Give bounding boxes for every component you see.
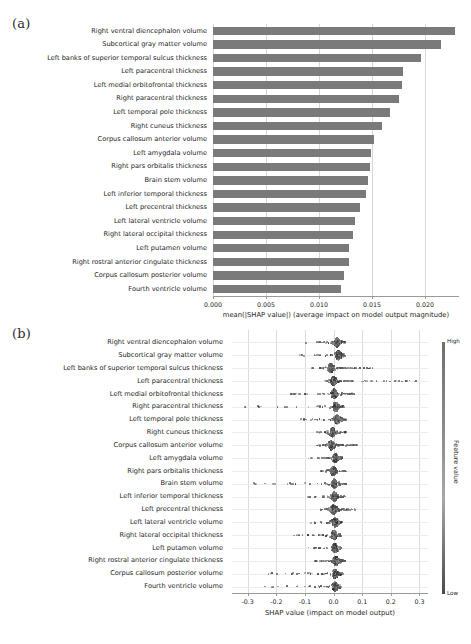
panel-b-swarm-point — [328, 342, 330, 344]
panel-b-swarm-point — [316, 445, 318, 447]
panel-a-bar-row[interactable] — [213, 106, 459, 120]
panel-a-bar[interactable] — [213, 163, 370, 171]
panel-a-bar-row[interactable] — [213, 51, 459, 65]
panel-b-swarm-point — [320, 560, 322, 562]
panel-b-swarm-point — [296, 573, 298, 575]
panel-b-category-label: Left banks of superior temporal sulcus t… — [63, 365, 223, 372]
panel-a-category-label: Brain stem volume — [145, 177, 207, 184]
panel-a-bar-row[interactable] — [213, 255, 459, 269]
panel-a-bar[interactable] — [213, 95, 399, 103]
panel-b-swarm-point — [334, 590, 336, 592]
panel-b-swarm-row[interactable] — [232, 477, 428, 490]
panel-b-swarm-row[interactable] — [232, 336, 428, 349]
panel-b-swarm-point — [338, 572, 340, 574]
panel-b-swarm-row[interactable] — [232, 387, 428, 400]
panel-a-bar[interactable] — [213, 190, 366, 198]
panel-a-bar[interactable] — [213, 149, 371, 157]
panel-a-bar[interactable] — [213, 203, 360, 211]
panel-a-bar-chart: Right ventral diencephalon volumeSubcort… — [0, 24, 471, 316]
panel-b-category-label-row: Brain stem volume — [0, 477, 228, 490]
panel-b-swarm-point — [264, 483, 266, 485]
panel-b-swarm-point — [349, 509, 351, 511]
panel-a-bar[interactable] — [213, 122, 382, 130]
panel-b-swarm-point — [277, 406, 279, 408]
panel-b-swarm-point — [326, 586, 328, 588]
panel-a-bar-row[interactable] — [213, 201, 459, 215]
panel-b-swarm-point — [366, 380, 368, 382]
panel-a-bar-row[interactable] — [213, 269, 459, 283]
panel-b-swarm-row[interactable] — [232, 542, 428, 555]
panel-a-bar-row[interactable] — [213, 214, 459, 228]
panel-b-category-label: Right cuneus thickness — [147, 429, 223, 436]
panel-a-bar[interactable] — [213, 40, 441, 48]
panel-a-bar-row[interactable] — [213, 160, 459, 174]
panel-b-swarm-row[interactable] — [232, 516, 428, 529]
panel-b-swarm-point — [317, 419, 319, 421]
panel-a-bar[interactable] — [213, 54, 421, 62]
panel-a-bar-row[interactable] — [213, 24, 459, 38]
panel-a-category-label: Left amygdala volume — [133, 150, 207, 157]
panel-b-swarm-row[interactable] — [232, 490, 428, 503]
panel-a-bar-row[interactable] — [213, 78, 459, 92]
panel-b-swarm-point — [334, 473, 336, 475]
panel-b-swarm-point — [371, 380, 373, 382]
panel-b-swarm-point — [340, 457, 342, 459]
panel-a-category-label: Corpus callosum posterior volume — [94, 272, 207, 279]
panel-a-bar-row[interactable] — [213, 282, 459, 296]
panel-a-bar[interactable] — [213, 135, 374, 143]
panel-a-bar-row[interactable] — [213, 119, 459, 133]
panel-b-swarm-row[interactable] — [232, 400, 428, 413]
panel-a-bar[interactable] — [213, 176, 368, 184]
panel-b-swarm-row[interactable] — [232, 439, 428, 452]
panel-a-bar[interactable] — [213, 231, 353, 239]
panel-a-bar-row[interactable] — [213, 65, 459, 79]
panel-b-swarm-row[interactable] — [232, 567, 428, 580]
panel-b-swarm-row[interactable] — [232, 362, 428, 375]
panel-a-bars — [213, 24, 459, 296]
panel-a-bar-row[interactable] — [213, 187, 459, 201]
panel-a-bar[interactable] — [213, 285, 341, 293]
panel-b-swarm-row[interactable] — [232, 375, 428, 388]
panel-b-category-label-row: Right ventral diencephalon volume — [0, 336, 228, 349]
panel-b-swarm-row[interactable] — [232, 426, 428, 439]
panel-b-swarm-point — [359, 367, 361, 369]
panel-b-swarm-row[interactable] — [232, 503, 428, 516]
panel-a-bar-row[interactable] — [213, 38, 459, 52]
panel-a-bar[interactable] — [213, 27, 455, 35]
panel-a-category-label: Left banks of superior temporal sulcus t… — [47, 55, 207, 62]
panel-b-swarm-row[interactable] — [232, 413, 428, 426]
panel-a-bar-row[interactable] — [213, 146, 459, 160]
panel-a-bar-row[interactable] — [213, 133, 459, 147]
panel-a-bar-row[interactable] — [213, 174, 459, 188]
panel-a-bar[interactable] — [213, 271, 344, 279]
panel-b-category-label: Left medial orbitofrontal thickness — [110, 391, 223, 398]
panel-b-swarm-point — [409, 380, 411, 382]
panel-a-bar[interactable] — [213, 258, 349, 266]
panel-b-swarm-point — [309, 483, 311, 485]
panel-b-swarm-row[interactable] — [232, 580, 428, 593]
panel-b-swarm-point — [292, 572, 294, 574]
panel-a-bar[interactable] — [213, 108, 390, 116]
panel-b-swarm-row[interactable] — [232, 452, 428, 465]
panel-a-bar[interactable] — [213, 81, 402, 89]
panel-b-swarm-row[interactable] — [232, 349, 428, 362]
panel-b-swarm-point — [383, 380, 385, 382]
panel-b-beeswarm-chart: Right ventral diencephalon volumeSubcort… — [0, 336, 471, 644]
panel-b-swarm-row[interactable] — [232, 554, 428, 567]
panel-b-category-label-row: Left temporal pole thickness — [0, 413, 228, 426]
panel-a-bar[interactable] — [213, 67, 403, 75]
panel-a-category-label: Left temporal pole thickness — [113, 109, 207, 116]
panel-a-tick-label: 0.005 — [257, 301, 275, 308]
panel-a-bar[interactable] — [213, 217, 355, 225]
panel-b-category-label-row: Left amygdala volume — [0, 452, 228, 465]
panel-a-bar-row[interactable] — [213, 242, 459, 256]
panel-a-bar-row[interactable] — [213, 92, 459, 106]
panel-b-swarm-point — [335, 339, 337, 341]
panel-b-swarm-point — [322, 444, 324, 446]
panel-b-swarm-row[interactable] — [232, 529, 428, 542]
panel-a-tick-mark — [372, 296, 373, 299]
panel-a-bar-row[interactable] — [213, 228, 459, 242]
panel-b-swarm-row[interactable] — [232, 465, 428, 478]
panel-a-bar[interactable] — [213, 244, 349, 252]
panel-b-swarm-point — [245, 406, 247, 408]
